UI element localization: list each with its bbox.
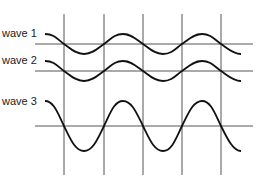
wave-2-label: wave 2	[2, 55, 37, 66]
wave-1-label: wave 1	[2, 28, 37, 39]
wave-3-label: wave 3	[2, 96, 37, 107]
wave-diagram	[0, 0, 267, 181]
horizontal-axes	[35, 44, 253, 126]
